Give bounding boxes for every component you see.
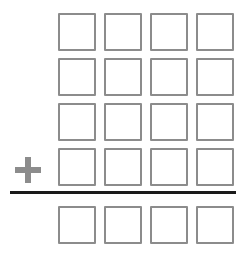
sum-cell[interactable]	[150, 206, 188, 244]
addition-worksheet	[0, 0, 249, 255]
sum-cell[interactable]	[58, 206, 96, 244]
sum-cell[interactable]	[196, 206, 234, 244]
sum-grid	[0, 0, 249, 255]
sum-cell[interactable]	[104, 206, 142, 244]
